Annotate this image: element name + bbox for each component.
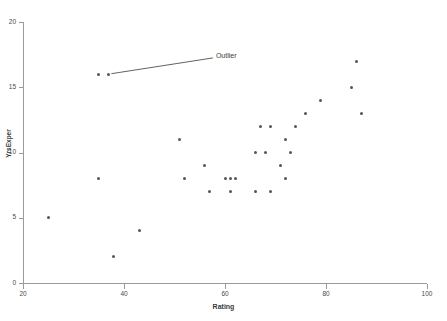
x-axis-title: Rating — [0, 303, 447, 310]
data-point — [229, 190, 232, 193]
data-point — [234, 177, 237, 180]
data-point — [112, 255, 115, 258]
data-point — [254, 151, 257, 154]
x-tick-label-40: 40 — [114, 291, 134, 298]
x-tick-80 — [326, 284, 327, 289]
x-tick-label-20: 20 — [13, 291, 33, 298]
y-tick-label-15: 15 — [0, 84, 16, 91]
x-tick-100 — [427, 284, 428, 289]
data-point — [183, 177, 186, 180]
scatter-chart: 05101520 20406080100 Rating YrsExper Out… — [0, 0, 447, 321]
y-tick-label-0: 0 — [0, 280, 16, 287]
data-point — [107, 73, 110, 76]
data-point — [203, 164, 206, 167]
data-point — [254, 190, 257, 193]
outlier-annotation-label: Outlier — [216, 52, 237, 59]
data-point — [289, 151, 292, 154]
data-point — [97, 73, 100, 76]
y-tick-label-20: 20 — [0, 19, 16, 26]
x-tick-label-80: 80 — [316, 291, 336, 298]
data-point — [294, 125, 297, 128]
x-tick-label-60: 60 — [215, 291, 235, 298]
data-point — [178, 138, 181, 141]
data-point — [269, 125, 272, 128]
x-tick-40 — [124, 284, 125, 289]
y-axis-title: YrsExper — [5, 114, 12, 174]
data-point — [208, 190, 211, 193]
data-point — [259, 125, 262, 128]
data-point — [319, 99, 322, 102]
data-point — [350, 86, 353, 89]
x-tick-20 — [23, 284, 24, 289]
data-point — [229, 177, 232, 180]
y-tick-label-5: 5 — [0, 214, 16, 221]
data-point — [284, 138, 287, 141]
data-point — [264, 151, 267, 154]
data-point — [355, 60, 358, 63]
x-tick-label-100: 100 — [417, 291, 437, 298]
data-point — [284, 177, 287, 180]
x-tick-60 — [225, 284, 226, 289]
data-point — [304, 112, 307, 115]
data-point — [97, 177, 100, 180]
data-point — [360, 112, 363, 115]
data-point — [138, 229, 141, 232]
data-point — [269, 190, 272, 193]
data-point — [279, 164, 282, 167]
data-point — [47, 216, 50, 219]
data-point — [224, 177, 227, 180]
plot-area — [23, 22, 427, 283]
